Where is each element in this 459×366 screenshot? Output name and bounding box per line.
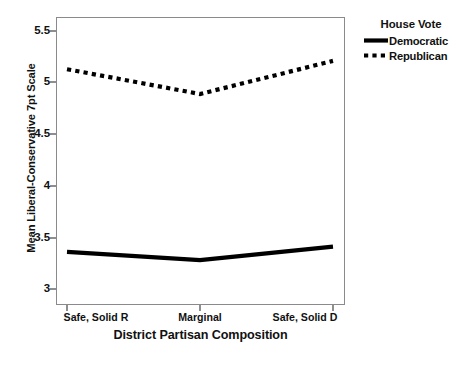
dotted-line-swatch bbox=[363, 50, 389, 61]
y-tick-5.5: 5.5 bbox=[8, 25, 50, 37]
legend-title: House Vote bbox=[363, 18, 459, 30]
y-tick-3: 3 bbox=[8, 283, 50, 295]
y-tick-label: 3 bbox=[44, 283, 50, 295]
plot-area bbox=[56, 17, 345, 305]
legend-label-democratic: Democratic bbox=[389, 35, 448, 47]
legend-item-republican[interactable]: Republican bbox=[363, 49, 459, 62]
y-axis-title: Mean Liberal-Conservative 7pt Scale bbox=[25, 43, 37, 273]
x-tick-label-safe-solid-d: Safe, Solid D bbox=[225, 311, 385, 323]
y-tick-label: 5.5 bbox=[34, 25, 50, 37]
legend: House Vote Democratic Republican bbox=[363, 18, 459, 64]
y-tick-label: 5 bbox=[44, 76, 50, 88]
chart-figure: 5.5 5 4.5 4 3.5 3 Mean Liberal-Conservat… bbox=[0, 0, 459, 366]
y-tick-label: 4 bbox=[44, 180, 50, 192]
solid-line-swatch bbox=[363, 35, 389, 46]
legend-label-republican: Republican bbox=[389, 50, 447, 62]
x-axis-title: District Partisan Composition bbox=[56, 328, 345, 342]
legend-item-democratic[interactable]: Democratic bbox=[363, 34, 459, 47]
